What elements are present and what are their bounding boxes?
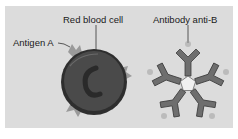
antigen-a-label: Antigen A [13,38,54,48]
red-blood-cell-icon [61,49,127,115]
antibody-anti-b-label: Antibody anti-B [153,15,217,25]
antibody-anti-b-icon [147,41,229,119]
red-blood-cell-label: Red blood cell [63,15,123,25]
antigen-leader-line [58,43,70,47]
